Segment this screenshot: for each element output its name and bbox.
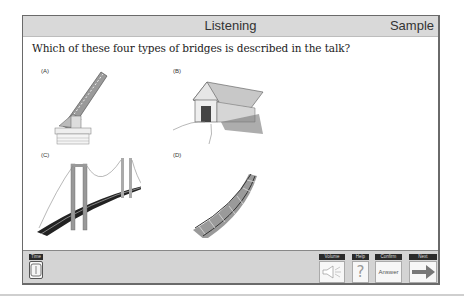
section-title: Listening [23,18,438,33]
next-button[interactable] [409,261,437,283]
option-d[interactable]: (D) [163,148,273,238]
divider [0,294,464,296]
help-label: Help [352,254,369,260]
header-bar: Listening Sample [23,16,438,37]
help-button[interactable]: ? [352,261,369,283]
answer-label: Answer [378,269,398,275]
volume-label: Volume [319,254,345,260]
time-button[interactable] [29,261,43,279]
time-label: Time [29,254,43,260]
right-arrow-icon [410,264,436,280]
bottom-toolbar: Time Volume Help [23,250,438,283]
suspension-bridge-image [31,148,141,238]
confirm-control[interactable]: Confirm Answer [375,254,402,283]
drawbridge-image [31,64,131,149]
test-window: Listening Sample Which of these four typ… [22,15,440,285]
sample-label: Sample [390,18,434,33]
option-a[interactable]: (A) [31,64,131,149]
option-b[interactable]: (B) [163,64,273,149]
option-c[interactable]: (C) [31,148,141,238]
next-label: Next [409,254,437,260]
confirm-answer-button[interactable]: Answer [375,261,402,283]
question-text: Which of these four types of bridges is … [32,42,350,54]
speaker-icon [321,264,343,280]
volume-button[interactable] [319,261,345,283]
confirm-label: Confirm [375,254,402,260]
clock-icon [30,263,42,277]
question-mark-icon: ? [357,263,365,281]
next-control[interactable]: Next [409,254,437,283]
covered-bridge-image [163,64,273,149]
help-control[interactable]: Help ? [352,254,369,283]
time-control[interactable]: Time [29,254,43,279]
volume-control[interactable]: Volume [319,254,345,283]
railway-track-image [163,148,273,238]
